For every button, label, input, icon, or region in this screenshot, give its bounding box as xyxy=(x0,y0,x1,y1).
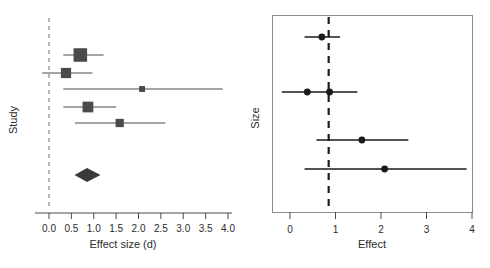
left-study-row xyxy=(63,48,103,62)
left-tick-label: 0.5 xyxy=(64,223,78,234)
right-data-rows xyxy=(282,34,467,173)
right-effect-marker xyxy=(326,89,333,96)
left-tick-label: 0.0 xyxy=(42,223,56,234)
left-x-tick-labels: 0.00.51.01.52.02.53.03.54.0 xyxy=(42,223,235,234)
left-tick-label: 4.0 xyxy=(221,223,235,234)
left-tick-label: 1.5 xyxy=(109,223,123,234)
right-forest-panel: 01234 Effect Size xyxy=(245,0,490,268)
right-tick-label: 0 xyxy=(287,224,293,235)
right-tick-label: 4 xyxy=(469,224,475,235)
left-tick-label: 3.0 xyxy=(176,223,190,234)
right-data-row xyxy=(316,137,408,144)
right-tick-label: 3 xyxy=(424,224,430,235)
left-effect-marker xyxy=(61,68,71,78)
left-study-row xyxy=(63,86,222,92)
left-effect-marker xyxy=(139,86,145,92)
right-plot-frame xyxy=(273,16,473,213)
right-data-row xyxy=(282,89,358,96)
left-plot-svg: 0.00.51.01.52.02.53.03.54.0 Effect size … xyxy=(0,0,245,268)
right-plot-svg: 01234 Effect Size xyxy=(245,0,490,268)
left-tick-label: 1.0 xyxy=(87,223,101,234)
left-tick-label: 2.5 xyxy=(154,223,168,234)
right-tick-label: 2 xyxy=(378,224,384,235)
left-study-rows xyxy=(42,48,222,127)
left-x-axis-ticks xyxy=(49,213,228,219)
left-effect-marker xyxy=(83,102,94,113)
forest-plot-figure: 0.00.51.01.52.02.53.03.54.0 Effect size … xyxy=(0,0,490,268)
left-y-axis-title: Study xyxy=(7,105,19,134)
right-effect-marker xyxy=(358,137,365,144)
right-x-axis-ticks xyxy=(290,212,472,219)
left-forest-panel: 0.00.51.01.52.02.53.03.54.0 Effect size … xyxy=(0,0,245,268)
left-x-axis-title: Effect size (d) xyxy=(89,238,156,250)
left-study-row xyxy=(75,119,165,127)
right-x-tick-labels: 01234 xyxy=(287,224,475,235)
right-tick-label: 1 xyxy=(333,224,339,235)
left-tick-label: 2.0 xyxy=(132,223,146,234)
left-summary-diamond xyxy=(75,168,101,182)
right-effect-marker xyxy=(304,89,311,96)
right-effect-marker xyxy=(381,166,388,173)
right-data-row xyxy=(305,34,340,41)
left-tick-label: 3.5 xyxy=(199,223,213,234)
left-effect-marker xyxy=(74,48,88,62)
left-effect-marker xyxy=(116,119,124,127)
right-y-axis-title: Size xyxy=(249,107,261,128)
right-x-axis-title: Effect xyxy=(358,238,386,250)
right-effect-marker xyxy=(318,34,325,41)
left-study-row xyxy=(42,68,92,78)
left-study-row xyxy=(63,102,116,113)
